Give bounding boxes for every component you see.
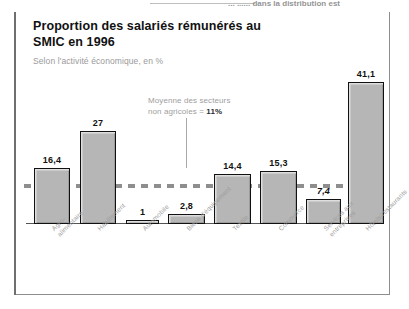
average-reference-line bbox=[24, 184, 386, 188]
average-annotation: Moyenne des secteursnon agricoles = 11% bbox=[148, 96, 268, 117]
bar-value-label: 27 bbox=[93, 118, 103, 128]
bar-value-label: 1 bbox=[140, 207, 145, 217]
bar[interactable] bbox=[80, 131, 116, 224]
average-annotation-text: Moyenne des secteursnon agricoles = 11% bbox=[148, 96, 268, 117]
scan-artifact-text: ... ...... dans la distribution est bbox=[228, 0, 396, 7]
bar-slot: 27 bbox=[80, 131, 116, 224]
bar-value-label: 2,8 bbox=[180, 201, 193, 211]
bar-value-label: 7,4 bbox=[317, 186, 330, 196]
bar-value-label: 41,1 bbox=[357, 69, 375, 79]
average-annotation-line1: Moyenne des secteurs bbox=[148, 96, 231, 105]
scan-artifact-strip: ... ...... dans la distribution est bbox=[0, 0, 397, 10]
average-annotation-value: 11% bbox=[206, 107, 222, 116]
plot-area: 16,42712,814,415,37,441,1 Agro- alimenta… bbox=[14, 12, 390, 295]
average-annotation-line2: non agricoles = bbox=[148, 107, 206, 116]
bar-value-label: 15,3 bbox=[269, 158, 287, 168]
annotation-leader-line bbox=[186, 118, 187, 168]
bar-value-label: 14,4 bbox=[223, 161, 241, 171]
bar-value-label: 16,4 bbox=[43, 155, 61, 165]
